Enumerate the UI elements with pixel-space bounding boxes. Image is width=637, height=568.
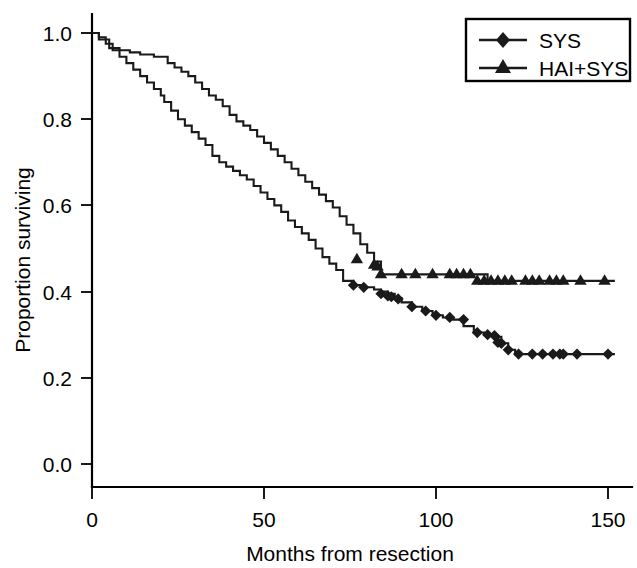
x-tick-label-0: 0 (86, 508, 98, 531)
y-tick-label-0.4: 0.4 (43, 281, 73, 304)
legend-label-sys: SYS (539, 29, 581, 52)
y-axis-title: Proportion surviving (11, 167, 34, 353)
y-tick-label-0.2: 0.2 (43, 367, 72, 390)
y-tick-label-0.8: 0.8 (43, 108, 72, 131)
survival-chart-figure: Proportion surviving 1.0 0.8 0.6 0.4 0.2… (0, 0, 637, 568)
x-tick-label-150: 150 (590, 508, 625, 531)
chart-legend: SYS HAI+SYS (466, 19, 630, 81)
x-tick-label-100: 100 (418, 508, 453, 531)
y-tick-label-1.0: 1.0 (43, 22, 72, 45)
survival-chart-svg: Proportion surviving 1.0 0.8 0.6 0.4 0.2… (0, 0, 637, 568)
x-tick-label-50: 50 (252, 508, 275, 531)
y-tick-label-0.6: 0.6 (43, 194, 72, 217)
x-axis-title: Months from resection (246, 542, 454, 565)
legend-label-hai-sys: HAI+SYS (539, 57, 628, 80)
y-tick-label-0.0: 0.0 (43, 453, 72, 476)
